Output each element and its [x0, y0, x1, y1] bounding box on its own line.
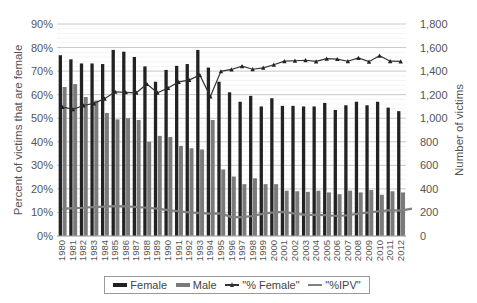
right-tick-label: 600	[420, 159, 438, 171]
male-swatch-icon	[176, 283, 190, 287]
left-tick-label: 70%	[31, 65, 53, 77]
triangle-marker-line-icon	[225, 284, 239, 286]
triangle-marker-icon	[377, 54, 381, 58]
x-tick-label: 1996	[226, 240, 237, 261]
left-tick-label: 90%	[31, 18, 53, 30]
bar-female	[154, 82, 157, 236]
x-tick-label: 2008	[352, 240, 363, 261]
legend: Female Male "% Female" "%IPV"	[104, 276, 370, 294]
bar-female	[133, 57, 136, 236]
x-tick-label: 1990	[162, 240, 173, 261]
right-tick-label: 0	[420, 230, 426, 242]
bar-male	[232, 177, 236, 236]
left-tick-label: 50%	[31, 112, 53, 124]
right-tick-label: 200	[420, 206, 438, 218]
x-tick-label: 2004	[310, 240, 321, 261]
bar-male	[380, 195, 384, 236]
bar-male	[158, 136, 162, 236]
bars	[59, 50, 405, 236]
bar-male	[264, 184, 268, 236]
legend-item-pct-female: "% Female"	[225, 279, 299, 291]
x-tick-label: 2000	[268, 240, 279, 261]
bar-female	[228, 92, 231, 236]
bar-male	[401, 192, 405, 236]
left-tick-label: 40%	[31, 136, 53, 148]
bar-male	[221, 169, 225, 236]
bar-female	[122, 52, 125, 236]
x-tick-label: 1992	[183, 240, 194, 261]
legend-label-pct-female: "% Female"	[242, 279, 299, 291]
x-tick-label: 2007	[342, 240, 353, 261]
bar-female	[101, 64, 104, 236]
x-tick-label: 1993	[194, 240, 205, 261]
chart: 0%10%20%30%40%50%60%70%80%90% 0200400600…	[0, 0, 477, 303]
bar-male	[63, 87, 67, 236]
x-tick-label: 1985	[109, 240, 120, 261]
bar-male	[73, 84, 77, 236]
bar-male	[189, 148, 193, 236]
bar-female	[270, 98, 273, 236]
x-tick-label: 2006	[331, 240, 342, 261]
x-tick-label: 1986	[120, 240, 131, 261]
bar-male	[348, 191, 352, 236]
bar-female	[80, 63, 83, 236]
bar-female	[334, 110, 337, 236]
x-tick-label: 2011	[384, 240, 395, 260]
bar-female	[302, 106, 305, 236]
bar-female	[143, 66, 146, 236]
x-tick-label: 2012	[395, 240, 406, 261]
right-tick-label: 1,600	[420, 42, 448, 54]
legend-label-female: Female	[130, 279, 167, 291]
bar-male	[126, 118, 130, 236]
bar-male	[200, 149, 204, 236]
x-tick-label: 1988	[141, 240, 152, 261]
bar-female	[313, 106, 316, 236]
bar-male	[327, 192, 331, 236]
left-tick-label: 20%	[31, 183, 53, 195]
right-tick-label: 1,000	[420, 112, 448, 124]
x-tick-label: 1994	[204, 240, 215, 261]
x-tick-label: 1997	[236, 240, 247, 261]
bar-female	[387, 108, 390, 236]
right-tick-label: 1,400	[420, 65, 448, 77]
bar-female	[186, 64, 189, 236]
x-tick-label: 2010	[374, 240, 385, 261]
bar-female	[355, 102, 358, 236]
x-tick-label: 1998	[247, 240, 258, 261]
left-axis: 0%10%20%30%40%50%60%70%80%90%	[31, 18, 53, 242]
legend-item-male: Male	[176, 279, 217, 291]
bar-male	[137, 120, 141, 236]
x-tick-label: 1982	[77, 240, 88, 261]
gridlines	[57, 24, 406, 236]
bar-female	[196, 50, 199, 236]
bar-male	[115, 119, 119, 236]
left-tick-label: 30%	[31, 159, 53, 171]
right-axis: 02004006008001,0001,2001,4001,6001,800	[420, 18, 448, 242]
bar-male	[274, 184, 278, 236]
legend-item-pct-ipv: "%IPV"	[308, 279, 360, 291]
line-icon	[308, 284, 322, 286]
bar-female	[238, 102, 241, 236]
bar-male	[253, 178, 257, 236]
bar-male	[316, 191, 320, 236]
bar-male	[211, 120, 215, 236]
legend-item-female: Female	[113, 279, 167, 291]
bar-female	[397, 111, 400, 236]
x-tick-label: 1980	[56, 240, 67, 261]
bar-male	[168, 137, 172, 236]
bar-male	[147, 142, 151, 236]
left-tick-label: 80%	[31, 42, 53, 54]
x-tick-label: 2005	[321, 240, 332, 261]
female-swatch-icon	[113, 283, 127, 287]
right-tick-label: 800	[420, 136, 438, 148]
right-tick-label: 1,800	[420, 18, 448, 30]
x-tick-label: 2001	[278, 240, 289, 261]
bar-female	[112, 50, 115, 236]
x-tick-label: 1983	[88, 240, 99, 261]
x-tick-label: 1981	[67, 240, 78, 261]
bar-male	[390, 191, 394, 236]
bar-male	[179, 146, 183, 236]
right-tick-label: 400	[420, 183, 438, 195]
x-tick-label: 1991	[173, 240, 184, 261]
bar-female	[281, 106, 284, 236]
